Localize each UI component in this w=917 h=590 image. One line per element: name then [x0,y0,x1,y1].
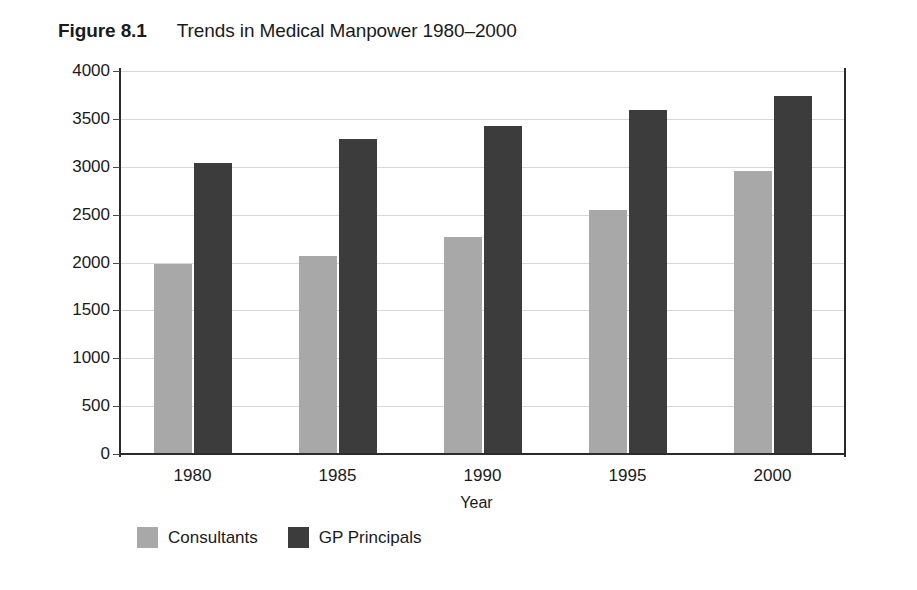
y-tick-label: 1000 [50,348,110,368]
y-axis-title: Number [0,164,2,222]
bar-1985-consultants [299,256,337,454]
x-tick-label: 2000 [713,466,833,486]
x-axis-spine [119,453,846,455]
legend-label: Consultants [168,528,258,548]
y-tick-mark [113,310,120,311]
y-tick-mark [113,167,120,168]
bar-1995-gp-principals [629,110,667,454]
right-axis-spine [844,68,846,457]
bar-1980-gp-principals [194,163,232,454]
y-tick-label: 3000 [50,157,110,177]
x-tick-label: 1995 [568,466,688,486]
chart-legend: ConsultantsGP Principals [137,527,421,548]
x-tick-label: 1980 [133,466,253,486]
bar-chart: 05001000150020002500300035004000 Number … [0,0,917,590]
bar-2000-consultants [734,171,772,454]
y-tick-label: 2000 [50,253,110,273]
y-tick-label: 0 [50,444,110,464]
y-tick-label: 3500 [50,109,110,129]
y-tick-label: 1500 [50,300,110,320]
legend-item: GP Principals [288,527,422,548]
y-tick-mark [113,406,120,407]
bar-1990-gp-principals [484,126,522,454]
bar-1990-consultants [444,237,482,454]
x-tick-label: 1985 [278,466,398,486]
x-axis-title: Year [0,494,917,512]
y-tick-mark [113,71,120,72]
legend-swatch-icon [137,527,158,548]
legend-item: Consultants [137,527,258,548]
x-axis-title-text: Year [460,494,492,512]
bar-2000-gp-principals [774,96,812,454]
y-tick-label: 2500 [50,205,110,225]
bar-1980-consultants [154,264,192,454]
y-tick-label: 500 [50,396,110,416]
gridline [120,119,845,120]
y-tick-mark [113,119,120,120]
x-tick-label: 1990 [423,466,543,486]
y-tick-label: 4000 [50,61,110,81]
plot-area [120,71,845,454]
gridline [120,71,845,72]
y-tick-mark [113,358,120,359]
bar-1995-consultants [589,210,627,454]
y-tick-mark [113,454,120,455]
y-tick-mark [113,215,120,216]
legend-label: GP Principals [319,528,422,548]
legend-swatch-icon [288,527,309,548]
bar-1985-gp-principals [339,139,377,454]
y-tick-mark [113,263,120,264]
